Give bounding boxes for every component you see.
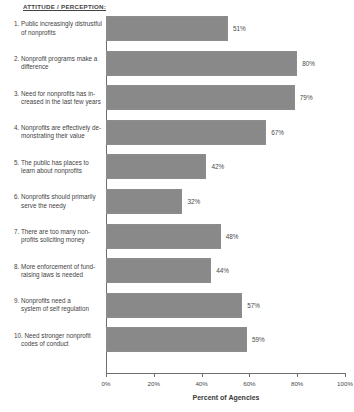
x-axis-tick <box>345 373 346 377</box>
bar-row: 32% <box>106 189 345 214</box>
category-label-line: 5. The public has places to <box>14 159 102 167</box>
bar-row: 67% <box>106 120 345 145</box>
category-label-line: 4. Nonprofits are effectively de- <box>14 124 102 132</box>
bar-value-label: 80% <box>302 60 315 67</box>
plot-area: 51%80%79%67%42%32%48%44%57%59% <box>106 16 345 373</box>
bar <box>106 189 182 214</box>
category-label-line: system of self regulation <box>14 305 102 313</box>
category-label-line: of nonprofits <box>14 29 102 37</box>
chart-header-title: ATTITUDE / PERCEPTION: <box>23 3 106 10</box>
bar <box>106 293 242 318</box>
category-label: 6. Nonprofits should primarilyserve the … <box>14 193 102 209</box>
category-label: 8. More enforcement of fund-raising laws… <box>14 263 102 279</box>
bar-value-label: 51% <box>233 25 246 32</box>
category-label-line: 1. Public increasingly distrustful <box>14 20 102 28</box>
bar-value-label: 44% <box>216 267 229 274</box>
x-axis-tick <box>154 373 155 377</box>
bar-row: 59% <box>106 327 345 352</box>
bar <box>106 224 221 249</box>
bar <box>106 51 297 76</box>
bar-value-label: 42% <box>211 163 224 170</box>
category-label-line: 7. There are too many non- <box>14 228 102 236</box>
category-label-line: 2. Nonprofit programs make a <box>14 55 102 63</box>
bar <box>106 258 211 283</box>
category-label: 7. There are too many non-profits solici… <box>14 228 102 244</box>
bar-value-label: 32% <box>187 198 200 205</box>
x-axis-tick-label: 100% <box>337 380 353 387</box>
x-axis-tick-label: 60% <box>243 380 255 387</box>
category-label: 4. Nonprofits are effectively de-monstra… <box>14 124 102 140</box>
category-label-line: 9. Nonprofits need a <box>14 297 102 305</box>
bar-row: 51% <box>106 16 345 41</box>
category-label: 2. Nonprofit programs make adifference <box>14 55 102 71</box>
x-axis-tick <box>106 373 107 377</box>
category-label-line: 3. Need for nonprofits has in- <box>14 90 102 98</box>
bar-row: 44% <box>106 258 345 283</box>
category-label-line: 6. Nonprofits should primarily <box>14 193 102 201</box>
bar-value-label: 57% <box>247 302 260 309</box>
category-label-line: difference <box>14 63 102 71</box>
bar-value-label: 59% <box>252 336 265 343</box>
bar-value-label: 48% <box>226 233 239 240</box>
bar-row: 57% <box>106 293 345 318</box>
bar <box>106 327 247 352</box>
category-label: 3. Need for nonprofits has in-creased in… <box>14 90 102 106</box>
category-label-line: creased in the last few years <box>14 98 102 106</box>
bar-row: 48% <box>106 224 345 249</box>
bar-value-label: 79% <box>300 94 313 101</box>
category-label: 5. The public has places tolearn about n… <box>14 159 102 175</box>
bar <box>106 154 206 179</box>
category-label: 9. Nonprofits need asystem of self regul… <box>14 297 102 313</box>
bar <box>106 120 266 145</box>
x-axis-line <box>106 373 346 374</box>
bar <box>106 16 228 41</box>
bar-value-label: 67% <box>271 129 284 136</box>
x-axis-tick <box>249 373 250 377</box>
bar-row: 42% <box>106 154 345 179</box>
x-axis-title: Percent of Agencies <box>106 394 346 401</box>
category-label-line: codes of conduct <box>14 340 102 348</box>
bar-chart: ATTITUDE / PERCEPTION: 0%20%40%60%80%100… <box>0 0 354 412</box>
category-label-line: learn about nonprofits <box>14 167 102 175</box>
x-axis-tick-label: 80% <box>291 380 303 387</box>
category-label-line: profits soliciting money <box>14 236 102 244</box>
x-axis-tick <box>297 373 298 377</box>
category-label: 10. Need stronger nonprofitcodes of cond… <box>14 332 102 348</box>
x-axis-tick-label: 0% <box>102 380 111 387</box>
bar-row: 79% <box>106 85 345 110</box>
x-axis-tick-label: 20% <box>148 380 160 387</box>
category-label: 1. Public increasingly distrustfulof non… <box>14 20 102 36</box>
category-label-line: raising laws is needed <box>14 271 102 279</box>
category-label-line: 8. More enforcement of fund- <box>14 263 102 271</box>
x-axis-tick <box>202 373 203 377</box>
category-label-line: serve the needy <box>14 202 102 210</box>
category-label-line: monstrating their value <box>14 132 102 140</box>
bar <box>106 85 295 110</box>
bar-row: 80% <box>106 51 345 76</box>
category-label-line: 10. Need stronger nonprofit <box>14 332 102 340</box>
x-axis-tick-label: 40% <box>195 380 207 387</box>
